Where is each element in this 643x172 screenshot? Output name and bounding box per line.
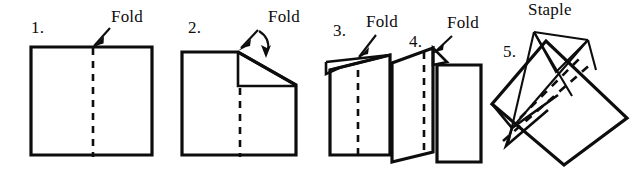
step-3-drawing [326, 35, 390, 155]
step-1-fold-label: Fold [111, 8, 143, 25]
instruction-figure: 1. Fold 2. Fold 3. Fold 4. Fold 5. Stapl… [0, 0, 643, 172]
step-3-number: 3. [333, 22, 346, 39]
step-5-staple-label: Staple [528, 1, 572, 18]
step-5-staple-line-5 [588, 40, 596, 70]
step-2-arrowhead-right [261, 45, 271, 58]
step-4-drawing [392, 36, 481, 162]
step-1-number: 1. [31, 19, 44, 36]
step-2-diagonal-fold-edge [238, 52, 296, 85]
step-3-sheet-outline [330, 55, 390, 155]
step-1-sheet-outline [31, 47, 152, 155]
step-5-number: 5. [503, 43, 516, 60]
step-4-right-panel [437, 65, 481, 162]
step-1-drawing [31, 28, 152, 157]
step-2-arrowhead-left [238, 39, 251, 51]
step-2-number: 2. [188, 19, 201, 36]
step-2-fold-label: Fold [268, 8, 300, 25]
step-5-staple-line-4 [512, 40, 588, 128]
step-5-staple-line-3 [534, 32, 588, 40]
step-4-number: 4. [409, 33, 422, 50]
step-4-left-panel [392, 48, 433, 162]
step-3-fold-label: Fold [366, 13, 398, 30]
step-2-drawing [182, 30, 296, 157]
step-4-fold-label: Fold [447, 14, 479, 31]
figure-linework [0, 0, 643, 172]
